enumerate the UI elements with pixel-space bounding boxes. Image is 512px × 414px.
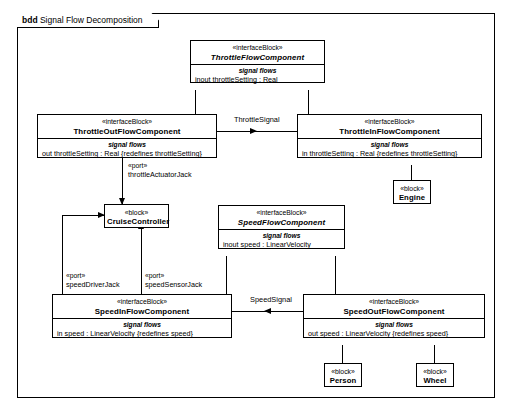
block-person[interactable]: «block» Person (324, 363, 362, 387)
port-label-speed-sensor-jack: «port» speedSensorJack (144, 272, 203, 289)
port-label-throttle-actuator-jack: «port» throttleActuatorJack (127, 162, 193, 179)
signal-flows-compartment: signal flows out throttleSetting : Real … (38, 138, 216, 160)
block-header: «interfaceBlock» SpeedOutFlowComponent (304, 295, 484, 318)
port-label-speed-driver-jack: «port» speedDriverJack (65, 272, 121, 289)
block-header: «block» Wheel (417, 364, 453, 387)
compartment-label: signal flows (193, 66, 322, 75)
generalization-wheel-to-speedout-line (434, 345, 435, 364)
block-stereotype: «block» (327, 367, 359, 376)
block-throttle-in-flow-component[interactable]: «interfaceBlock» ThrottleInFlowComponent… (297, 114, 482, 158)
block-header: «block» Engine (394, 181, 430, 204)
generalization-speedin-to-speedflow-vline (226, 256, 227, 294)
feature-item: inout speed : LinearVelocity (221, 240, 342, 249)
block-name: SpeedFlowComponent (221, 217, 342, 227)
generalization-person-to-speedout-line (342, 345, 343, 364)
block-throttle-flow-component[interactable]: «interfaceBlock» ThrottleFlowComponent s… (190, 40, 325, 83)
signal-flows-compartment: signal flows inout speed : LinearVelocit… (219, 229, 344, 251)
block-header: «block» Person (325, 364, 361, 387)
block-header: «interfaceBlock» SpeedFlowComponent (219, 206, 344, 229)
diagram-canvas: bdd Signal Flow Decomposition «interface… (0, 0, 512, 414)
signal-flows-compartment: signal flows inout throttleSetting : Rea… (191, 64, 324, 86)
compartment-label: signal flows (221, 231, 342, 240)
block-throttle-out-flow-component[interactable]: «interfaceBlock» ThrottleOutFlowComponen… (37, 114, 217, 158)
block-engine[interactable]: «block» Engine (393, 180, 431, 204)
block-stereotype: «interfaceBlock» (300, 117, 479, 126)
association-speed-driver-jack-vline (62, 215, 63, 295)
block-wheel[interactable]: «block» Wheel (416, 363, 454, 387)
block-name: Engine (396, 193, 428, 203)
generalization-speedout-to-speedflow-line (335, 256, 336, 294)
block-name: CruiseController (107, 217, 166, 227)
block-header: «interfaceBlock» ThrottleFlowComponent (191, 41, 324, 64)
flow-throttle-signal-line (217, 131, 297, 132)
block-stereotype: «block» (419, 367, 451, 376)
edge-label-throttle-signal: ThrottleSignal (233, 115, 281, 124)
block-header: «block» CruiseController (105, 205, 168, 228)
block-name: SpeedInFlowComponent (55, 306, 229, 316)
generalization-engine-to-throttlein-line (411, 165, 412, 181)
feature-item: inout throttleSetting : Real (193, 75, 322, 84)
port-name: speedSensorJack (145, 280, 202, 289)
association-speed-sensor-jack-line (141, 228, 142, 295)
feature-item: out throttleSetting : Real {redefines th… (40, 149, 214, 158)
feature-item: in throttleSetting : Real {redefines thr… (300, 149, 479, 158)
diagram-title-tab: bdd Signal Flow Decomposition (17, 13, 159, 28)
signal-flows-compartment: signal flows in throttleSetting : Real {… (298, 138, 481, 160)
block-name: ThrottleInFlowComponent (300, 126, 479, 136)
diagram-kind: bdd (22, 15, 38, 25)
port-name: throttleActuatorJack (128, 170, 192, 179)
port-name: speedDriverJack (66, 280, 120, 289)
block-name: ThrottleOutFlowComponent (40, 126, 214, 136)
block-speed-flow-component[interactable]: «interfaceBlock» SpeedFlowComponent sign… (218, 205, 345, 249)
block-header: «interfaceBlock» ThrottleOutFlowComponen… (38, 115, 216, 138)
diagram-title: Signal Flow Decomposition (40, 15, 143, 25)
edge-label-speed-signal: SpeedSignal (249, 295, 293, 304)
block-speed-in-flow-component[interactable]: «interfaceBlock» SpeedInFlowComponent si… (52, 294, 232, 338)
block-name: Person (327, 376, 359, 386)
block-cruise-controller[interactable]: «block» CruiseController (104, 204, 169, 228)
block-stereotype: «interfaceBlock» (221, 208, 342, 217)
compartment-label: signal flows (300, 140, 479, 149)
compartment-label: signal flows (40, 140, 214, 149)
flow-arrowhead-icon (264, 308, 271, 314)
block-stereotype: «interfaceBlock» (193, 43, 322, 52)
block-stereotype: «block» (396, 184, 428, 193)
block-name: SpeedOutFlowComponent (306, 306, 482, 316)
signal-flows-compartment: signal flows out speed : LinearVelocity … (304, 318, 484, 340)
block-stereotype: «interfaceBlock» (40, 117, 214, 126)
signal-flows-compartment: signal flows in speed : LinearVelocity {… (53, 318, 231, 340)
compartment-label: signal flows (55, 320, 229, 329)
block-name: Wheel (419, 376, 451, 386)
block-stereotype: «block» (107, 208, 166, 217)
block-header: «interfaceBlock» ThrottleInFlowComponent (298, 115, 481, 138)
block-stereotype: «interfaceBlock» (55, 297, 229, 306)
block-header: «interfaceBlock» SpeedInFlowComponent (53, 295, 231, 318)
block-speed-out-flow-component[interactable]: «interfaceBlock» SpeedOutFlowComponent s… (303, 294, 485, 338)
block-name: ThrottleFlowComponent (193, 52, 322, 62)
feature-item: out speed : LinearVelocity {redefines sp… (306, 329, 482, 338)
block-stereotype: «interfaceBlock» (306, 297, 482, 306)
compartment-label: signal flows (306, 320, 482, 329)
flow-arrowhead-icon (250, 128, 257, 134)
generalization-throttlein-to-throttleflow-line (308, 90, 309, 115)
feature-item: in speed : LinearVelocity {redefines spe… (55, 329, 229, 338)
generalization-throttleout-to-throttleflow-line (195, 90, 196, 115)
